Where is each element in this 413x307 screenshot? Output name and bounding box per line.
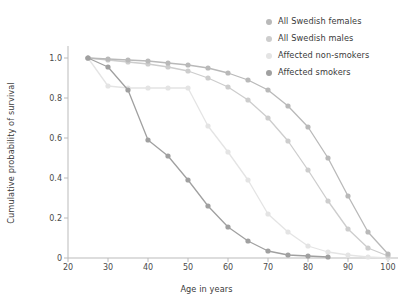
data-point bbox=[185, 62, 190, 67]
data-point bbox=[245, 77, 250, 82]
legend-marker-icon bbox=[266, 53, 272, 59]
legend-item-all-swedish-females: All Swedish females bbox=[266, 14, 369, 29]
data-point bbox=[305, 253, 310, 258]
legend-item-label: Affected smokers bbox=[278, 65, 351, 80]
data-point bbox=[325, 198, 330, 203]
data-point bbox=[105, 83, 110, 88]
x-tick-label: 20 bbox=[63, 263, 73, 272]
data-point bbox=[245, 238, 250, 243]
data-point bbox=[165, 85, 170, 90]
y-tick-label: 0 bbox=[30, 254, 62, 263]
y-tick-label: 0.2 bbox=[30, 214, 62, 223]
data-point bbox=[265, 87, 270, 92]
data-point bbox=[205, 75, 210, 80]
y-tick-label: 0.4 bbox=[30, 174, 62, 183]
data-point bbox=[345, 193, 350, 198]
legend-item-label: Affected non-smokers bbox=[278, 48, 369, 63]
data-point bbox=[385, 251, 390, 256]
y-axis-label: Cumulative probability of survival bbox=[6, 68, 16, 238]
data-point bbox=[185, 68, 190, 73]
data-point bbox=[265, 248, 270, 253]
series-all-swedish-males bbox=[85, 55, 390, 258]
x-tick-label: 40 bbox=[143, 263, 153, 272]
legend-marker-icon bbox=[266, 70, 272, 76]
data-point bbox=[265, 211, 270, 216]
chart-legend: All Swedish females All Swedish males Af… bbox=[266, 14, 369, 80]
y-tick-label: 0.6 bbox=[30, 134, 62, 143]
series-all-swedish-females bbox=[85, 55, 390, 256]
data-point bbox=[285, 138, 290, 143]
data-point bbox=[325, 254, 330, 259]
x-tick-label: 30 bbox=[103, 263, 113, 272]
data-point bbox=[285, 252, 290, 257]
data-point bbox=[205, 123, 210, 128]
x-tick-label: 80 bbox=[303, 263, 313, 272]
series-line bbox=[88, 58, 388, 258]
x-tick-label: 90 bbox=[343, 263, 353, 272]
x-tick-label: 100 bbox=[380, 263, 395, 272]
data-point bbox=[285, 229, 290, 234]
legend-item-label: All Swedish females bbox=[278, 14, 362, 29]
legend-item-label: All Swedish males bbox=[278, 31, 353, 46]
data-point bbox=[365, 229, 370, 234]
x-tick-label: 50 bbox=[183, 263, 193, 272]
x-tick-label: 70 bbox=[263, 263, 273, 272]
series-affected-smokers bbox=[85, 55, 330, 259]
legend-item-affected-smokers: Affected smokers bbox=[266, 65, 369, 80]
data-point bbox=[325, 249, 330, 254]
x-tick-label: 60 bbox=[223, 263, 233, 272]
data-point bbox=[225, 224, 230, 229]
legend-item-affected-non-smokers: Affected non-smokers bbox=[266, 48, 369, 63]
data-point bbox=[245, 177, 250, 182]
data-point bbox=[305, 167, 310, 172]
data-point bbox=[205, 65, 210, 70]
data-point bbox=[205, 203, 210, 208]
data-point bbox=[345, 226, 350, 231]
data-point bbox=[145, 85, 150, 90]
data-point bbox=[185, 177, 190, 182]
data-point bbox=[365, 245, 370, 250]
data-point bbox=[145, 137, 150, 142]
legend-marker-icon bbox=[266, 36, 272, 42]
data-point bbox=[225, 149, 230, 154]
data-point bbox=[165, 153, 170, 158]
data-point bbox=[225, 70, 230, 75]
series-affected-non-smokers bbox=[85, 55, 390, 260]
y-tick-label: 0.8 bbox=[30, 94, 62, 103]
data-point bbox=[285, 103, 290, 108]
data-point bbox=[265, 115, 270, 120]
legend-item-all-swedish-males: All Swedish males bbox=[266, 31, 369, 46]
legend-marker-icon bbox=[266, 19, 272, 25]
survival-curve-chart: Age in years Cumulative probability of s… bbox=[0, 0, 413, 307]
data-point bbox=[345, 252, 350, 257]
data-point bbox=[305, 124, 310, 129]
data-point bbox=[245, 97, 250, 102]
data-point bbox=[325, 155, 330, 160]
data-point bbox=[305, 243, 310, 248]
data-point bbox=[185, 85, 190, 90]
data-point bbox=[105, 64, 110, 69]
x-axis-label: Age in years bbox=[0, 284, 413, 294]
data-point bbox=[365, 254, 370, 259]
data-point bbox=[125, 87, 130, 92]
data-point bbox=[165, 60, 170, 65]
data-point bbox=[145, 58, 150, 63]
data-point bbox=[105, 56, 110, 61]
data-point bbox=[225, 84, 230, 89]
data-point bbox=[85, 55, 90, 60]
data-point bbox=[125, 57, 130, 62]
y-tick-label: 1.0 bbox=[30, 54, 62, 63]
